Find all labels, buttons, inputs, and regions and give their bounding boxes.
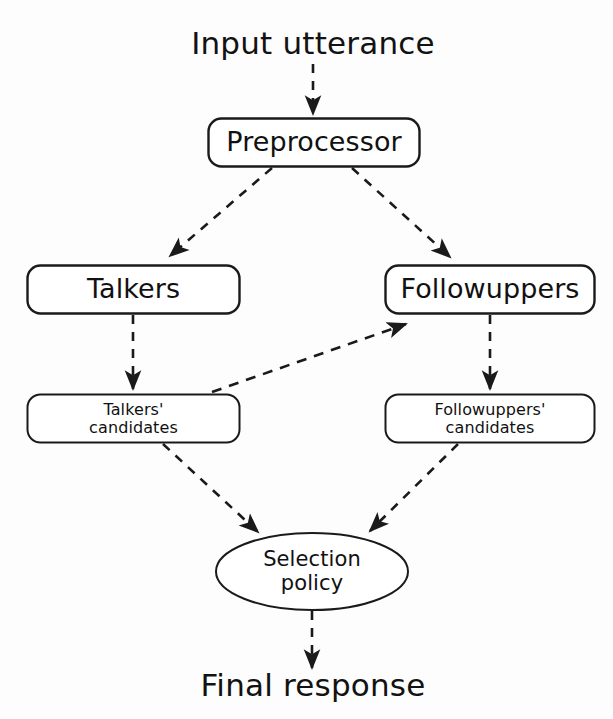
node-shape-preprocessor xyxy=(209,119,420,167)
final-response-text: Final response xyxy=(163,666,463,704)
node-shape-selection-policy xyxy=(216,533,408,610)
edge-followuppers-candidates-to-selection-policy xyxy=(370,444,458,531)
diagram-graphics xyxy=(0,0,613,719)
node-shape-talkers xyxy=(28,266,240,314)
diagram-canvas: Input utterance Final response Preproces… xyxy=(0,0,613,719)
input-utterance-text: Input utterance xyxy=(163,24,463,62)
node-shape-followuppers-candidates xyxy=(386,395,595,443)
edge-talkers-candidates-to-selection-policy xyxy=(163,444,258,532)
edge-preprocessor-to-followuppers xyxy=(352,168,450,257)
edge-talkers-candidates-to-followuppers xyxy=(212,324,406,392)
edge-preprocessor-to-talkers xyxy=(170,168,272,256)
node-shape-followuppers xyxy=(386,266,595,314)
node-shape-talkers-candidates xyxy=(28,395,240,443)
